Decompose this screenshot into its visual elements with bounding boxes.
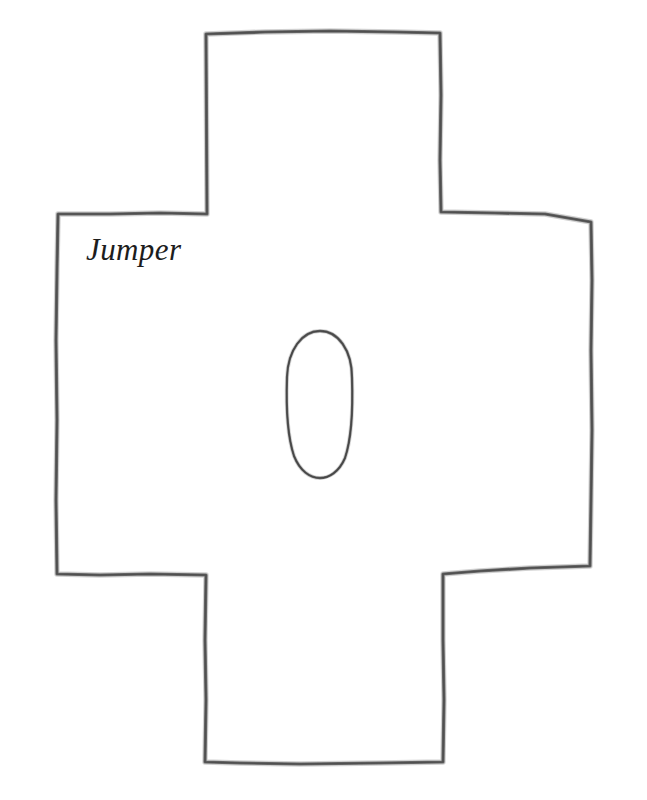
cross-outline [56, 31, 592, 764]
cross-outline-shadow [56, 31, 592, 764]
oval-neck-opening-shadow [287, 331, 352, 478]
oval-neck-opening-group [287, 331, 352, 478]
pattern-name-label: Jumper [86, 234, 181, 265]
oval-neck-opening [287, 331, 352, 478]
pattern-drawing [0, 0, 647, 800]
cross-outline-group [56, 31, 592, 764]
oval-neck-opening-core [287, 331, 352, 478]
cross-outline-core [56, 31, 592, 764]
pattern-canvas: Jumper [0, 0, 647, 800]
